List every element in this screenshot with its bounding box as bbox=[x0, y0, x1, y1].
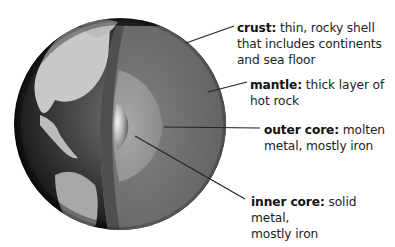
label-mantle-desc-2: hot rock bbox=[250, 94, 299, 108]
label-crust: crust: thin, rocky shell that includes c… bbox=[237, 20, 382, 68]
label-outer-core-desc-2: metal, mostly iron bbox=[264, 139, 373, 153]
label-inner-core: inner core: solid metal, mostly iron bbox=[251, 194, 395, 242]
label-mantle-desc-1: thick layer of bbox=[306, 78, 384, 92]
label-crust-desc-1: thin, rocky shell bbox=[280, 21, 375, 35]
label-inner-core-term: inner core: bbox=[251, 195, 325, 209]
label-mantle: mantle: thick layer of hot rock bbox=[250, 77, 384, 109]
label-crust-desc-2: that includes continents bbox=[237, 37, 382, 51]
label-outer-core-desc-1: molten bbox=[343, 123, 385, 137]
leader-crust bbox=[186, 26, 234, 43]
label-mantle-term: mantle: bbox=[250, 78, 302, 92]
label-inner-core-desc-2: mostly iron bbox=[251, 227, 318, 241]
label-crust-term: crust: bbox=[237, 21, 276, 35]
label-outer-core: outer core: molten metal, mostly iron bbox=[264, 122, 385, 154]
label-crust-desc-3: and sea floor bbox=[237, 53, 315, 67]
label-outer-core-term: outer core: bbox=[264, 123, 339, 137]
